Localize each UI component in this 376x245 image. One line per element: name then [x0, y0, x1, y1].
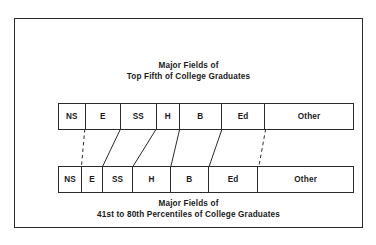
top-caption-line-1: Major Fields of: [15, 61, 362, 72]
connector-line-b: [209, 129, 222, 167]
bottom-segment-ed: Ed: [209, 167, 259, 192]
top-segment-h: H: [157, 104, 180, 129]
connector-line-e: [102, 129, 120, 167]
bottom-caption-line-2: 41st to 80th Percentiles of College Grad…: [15, 210, 362, 221]
bottom-caption-line-1: Major Fields of: [15, 199, 362, 210]
bottom-segment-other: Other: [258, 167, 353, 192]
bottom-segment-ss: SS: [103, 167, 133, 192]
top-segment-ss: SS: [121, 104, 156, 129]
bar-connector-lines: [58, 129, 354, 167]
percentile-bar: NS E SS H B Ed Other: [58, 166, 354, 193]
connector-line-ns: [81, 129, 84, 167]
bottom-segment-ns: NS: [59, 167, 82, 192]
bottom-segment-h: H: [133, 167, 171, 192]
connector-line-ss: [133, 129, 157, 167]
top-segment-b: B: [180, 104, 222, 129]
top-chart-caption: Major Fields of Top Fifth of College Gra…: [15, 61, 362, 82]
top-segment-other: Other: [265, 104, 353, 129]
connector-line-h: [171, 129, 180, 167]
top-segment-ns: NS: [59, 104, 86, 129]
connector-line-ed: [259, 129, 266, 167]
figure-frame: Major Fields of Top Fifth of College Gra…: [14, 18, 363, 228]
bottom-segment-e: E: [82, 167, 103, 192]
bottom-chart-caption: Major Fields of 41st to 80th Percentiles…: [15, 199, 362, 220]
bar-connector-band: [58, 129, 354, 167]
top-caption-line-2: Top Fifth of College Graduates: [15, 72, 362, 83]
top-segment-ed: Ed: [222, 104, 265, 129]
top-segment-e: E: [86, 104, 121, 129]
top-fifth-bar: NS E SS H B Ed Other: [58, 103, 354, 130]
bottom-segment-b: B: [171, 167, 209, 192]
